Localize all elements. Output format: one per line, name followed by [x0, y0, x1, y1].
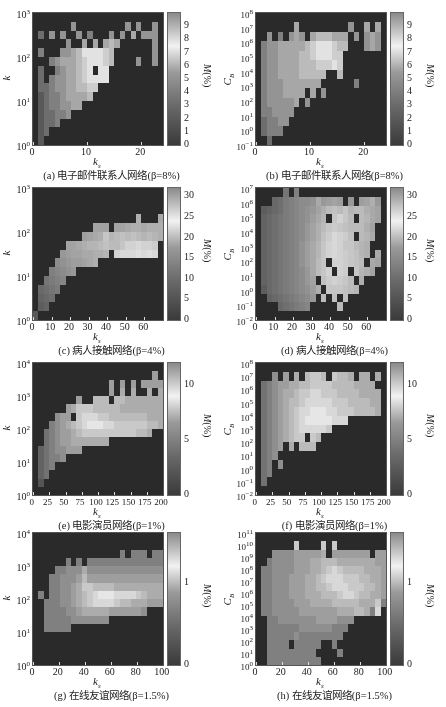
y-tick-label: 103 — [17, 7, 31, 20]
y-tick-label: 101 — [17, 95, 31, 108]
colorbar-tick-label: 10 — [407, 273, 417, 283]
x-tick-mark — [111, 662, 112, 665]
colorbar-tick-label: 20 — [184, 232, 194, 242]
colorbar-tick-label: 0 — [407, 489, 412, 499]
y-tick-label: 107 — [241, 370, 254, 383]
colorbar-tick-label: 1 — [407, 577, 412, 587]
x-tick-mark — [33, 317, 34, 320]
x-tick-label: 40 — [324, 322, 334, 332]
heatmap-plot-area — [255, 532, 387, 666]
x-tick-mark — [360, 662, 361, 665]
y-tick-label: 104 — [241, 66, 254, 79]
y-tick-label: 100 — [17, 314, 31, 327]
colorbar-tick-label: 4 — [184, 86, 189, 96]
y-tick-label: 10−2 — [237, 489, 253, 502]
y-tick-label: 106 — [241, 587, 254, 600]
colorbar-label: M(%) — [425, 64, 436, 87]
x-tick-mark — [293, 317, 294, 320]
y-tick-label: 1010 — [237, 539, 253, 552]
y-tick-label: 102 — [241, 95, 254, 108]
x-tick-label: 30 — [306, 322, 316, 332]
x-tick-label: 50 — [120, 322, 130, 332]
y-tick-label: 108 — [241, 563, 254, 576]
heatmap-cells — [256, 363, 386, 495]
y-tick-label: 100 — [241, 285, 254, 298]
x-tick-label: 100 — [377, 667, 392, 677]
y-tick-label: 103 — [241, 80, 254, 93]
x-tick-label: 0 — [29, 322, 34, 332]
x-tick-mark — [364, 142, 365, 145]
x-tick-label: 20 — [358, 147, 368, 157]
colorbar — [167, 12, 181, 146]
x-tick-label: 60 — [105, 667, 115, 677]
x-tick-label: 20 — [64, 322, 74, 332]
y-tick-label: 101 — [241, 647, 254, 660]
x-tick-label: 80 — [131, 667, 141, 677]
colorbar-label: M(%) — [202, 64, 213, 87]
y-tick-label: 104 — [17, 527, 31, 540]
colorbar-tick-label: 7 — [184, 47, 189, 57]
y-tick-label: 102 — [17, 593, 31, 606]
x-tick-mark — [163, 662, 164, 665]
colorbar — [390, 187, 404, 321]
x-tick-mark — [82, 492, 83, 495]
x-tick-mark — [147, 492, 148, 495]
heatmap-cells — [256, 533, 386, 665]
x-tick-mark — [85, 662, 86, 665]
colorbar-label: M(%) — [425, 239, 436, 262]
y-tick-label: 107 — [241, 575, 254, 588]
x-tick-label: 50 — [343, 322, 353, 332]
colorbar-label: M(%) — [425, 584, 436, 607]
x-tick-label: 10 — [81, 147, 91, 157]
x-tick-label: 125 — [328, 497, 342, 507]
heatmap-plot-area — [255, 12, 387, 146]
x-tick-label: 0 — [252, 667, 257, 677]
colorbar-tick-label: 3 — [184, 99, 189, 109]
colorbar-label: M(%) — [202, 584, 213, 607]
heatmap-plot-area — [32, 12, 164, 146]
y-tick-label: 1011 — [237, 527, 253, 540]
x-tick-label: 10 — [304, 147, 314, 157]
colorbar-tick-label: 15 — [184, 252, 194, 262]
colorbar-tick-label: 6 — [407, 60, 412, 70]
heatmap-panel-c: 0102030405060100101102103kks051015202530… — [0, 175, 223, 350]
x-tick-label: 60 — [361, 322, 371, 332]
x-tick-label: 20 — [287, 322, 297, 332]
x-tick-mark — [141, 142, 142, 145]
x-tick-mark — [126, 317, 127, 320]
x-tick-mark — [386, 662, 387, 665]
x-tick-label: 75 — [299, 497, 308, 507]
colorbar-tick-label: 1 — [407, 126, 412, 136]
x-tick-label: 40 — [101, 322, 111, 332]
x-tick-label: 20 — [135, 147, 145, 157]
y-tick-label: 102 — [241, 255, 254, 268]
heatmap-plot-area — [255, 362, 387, 496]
y-tick-label: 105 — [241, 599, 254, 612]
x-tick-label: 40 — [302, 667, 312, 677]
y-tick-label: 102 — [17, 226, 31, 239]
y-tick-label: 103 — [17, 182, 31, 195]
y-tick-label: 101 — [241, 449, 254, 462]
colorbar — [167, 532, 181, 666]
y-axis-label: CB — [221, 249, 236, 261]
x-tick-mark — [66, 492, 67, 495]
colorbar-label: M(%) — [425, 414, 436, 437]
x-tick-label: 20 — [53, 667, 63, 677]
colorbar-tick-label: 30 — [407, 190, 417, 200]
panel-caption: (g) 在线友谊网络(β=1.5%) — [0, 687, 223, 702]
colorbar-tick-label: 0 — [184, 314, 189, 324]
x-tick-label: 30 — [83, 322, 93, 332]
colorbar-tick-label: 2 — [184, 113, 189, 123]
y-axis-label: k — [0, 426, 12, 431]
x-tick-mark — [70, 317, 71, 320]
colorbar-tick-label: 5 — [407, 434, 412, 444]
colorbar-tick-label: 5 — [184, 73, 189, 83]
colorbar-tick-label: 2 — [407, 113, 412, 123]
colorbar-tick-label: 10 — [184, 379, 194, 389]
x-tick-label: 200 — [154, 497, 168, 507]
x-tick-label: 60 — [328, 667, 338, 677]
colorbar — [167, 362, 181, 496]
y-tick-label: 102 — [17, 51, 31, 64]
heatmap-cells — [33, 533, 163, 665]
x-tick-label: 150 — [345, 497, 359, 507]
